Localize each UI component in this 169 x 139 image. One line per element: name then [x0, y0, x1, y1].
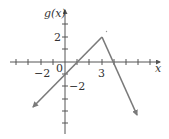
y-tick-label-2: 2 [54, 31, 61, 44]
y-axis-label: g(x) [44, 7, 66, 20]
vertex-dot [106, 31, 107, 32]
origin-label: 0 [56, 62, 63, 75]
graph-canvas: g(x) x 0 −2 3 2 −2 [0, 0, 169, 139]
x-tick-label-neg2: −2 [34, 67, 50, 80]
y-tick-label-neg2: −2 [69, 80, 85, 93]
x-axis [10, 59, 160, 65]
x-axis-label: x [155, 62, 162, 75]
x-tick-label-3: 3 [98, 67, 105, 80]
